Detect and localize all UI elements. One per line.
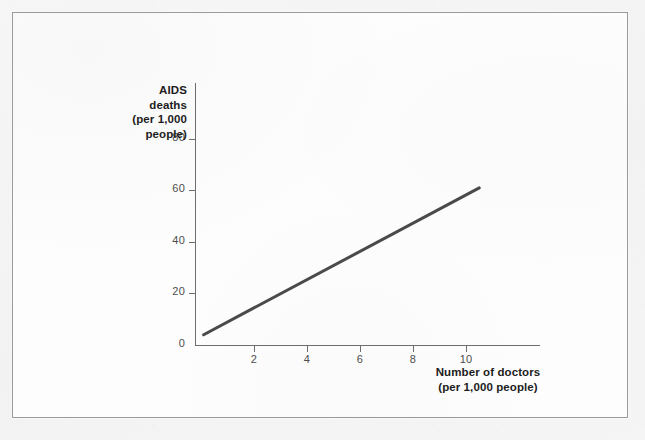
plot-area: 80 60 40 20 0 2 4 6 8 10 AIDS deaths (pe…: [13, 13, 627, 417]
chart-series-svg: [13, 13, 645, 440]
figure-page: 80 60 40 20 0 2 4 6 8 10 AIDS deaths (pe…: [12, 12, 628, 418]
trend-line: [204, 188, 480, 335]
